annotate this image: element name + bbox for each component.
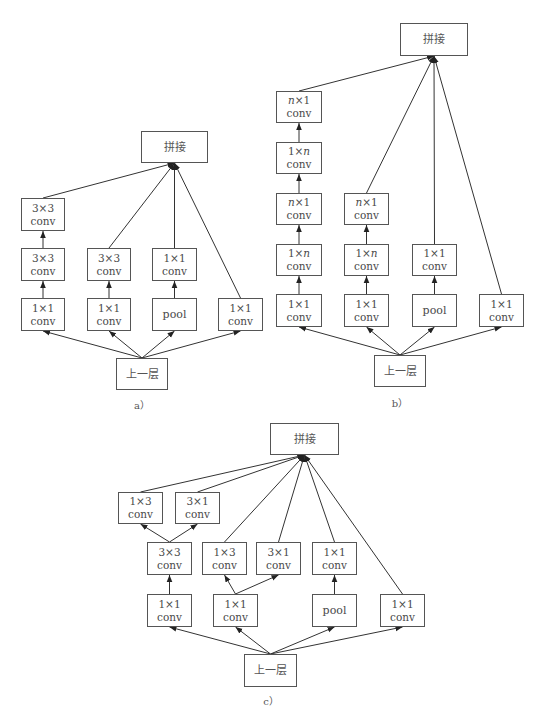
conv-box: 1×1conv <box>276 294 322 327</box>
conv-box: 1×nconv <box>344 244 389 276</box>
box-label: 3×3 <box>98 252 120 265</box>
box-sublabel: conv <box>31 215 56 228</box>
box-sublabel: conv <box>185 508 210 521</box>
conv-box: 1×1conv <box>344 294 389 327</box>
box-label: 上一层 <box>126 368 159 381</box>
conv-box: 3×1conv <box>256 542 301 575</box>
edge-arrow <box>141 524 170 542</box>
conv-box: n×1conv <box>276 193 322 225</box>
edge-arrow <box>434 56 435 244</box>
edge-arrow <box>400 327 435 355</box>
box-label: 1×1 <box>288 298 310 311</box>
box-label: 3×1 <box>267 546 289 559</box>
box-sublabel: conv <box>31 315 56 328</box>
conv-box: 1×1conv <box>479 294 524 327</box>
conv-box: 1×1conv <box>152 248 197 281</box>
box-label: 3×3 <box>32 252 54 265</box>
box-label: 上一层 <box>384 365 417 378</box>
concat-box: 拼接 <box>270 423 339 455</box>
box-label: 1×1 <box>158 598 180 611</box>
edge-arrow <box>367 56 435 193</box>
box-label: 1×1 <box>423 247 445 260</box>
edge-arrow <box>305 455 335 542</box>
conv-box: 1×3conv <box>202 542 247 575</box>
box-sublabel: conv <box>266 559 291 572</box>
conv-box: 1×1conv <box>380 594 425 627</box>
panel-caption: c） <box>263 693 279 708</box>
box-sublabel: conv <box>287 107 312 120</box>
edge-arrow <box>271 627 335 654</box>
edge-arrow <box>109 163 175 248</box>
edge-arrow <box>198 455 305 492</box>
edge-arrow <box>43 331 142 358</box>
box-sublabel: conv <box>31 265 56 278</box>
box-label: 拼接 <box>423 33 445 46</box>
panel-caption: b） <box>392 395 408 410</box>
box-label: pool <box>423 304 447 317</box>
conv-box: 1×1conv <box>147 594 192 627</box>
conv-box: 3×1conv <box>175 492 220 524</box>
concat-box: 拼接 <box>141 131 208 163</box>
box-label: 3×3 <box>32 202 54 215</box>
box-sublabel: conv <box>354 209 379 222</box>
conv-box: 1×1conv <box>21 298 65 331</box>
box-label: 1×3 <box>129 495 151 508</box>
box-label: 1×1 <box>98 302 120 315</box>
box-sublabel: conv <box>157 611 182 624</box>
box-sublabel: conv <box>162 265 187 278</box>
box-label: 1×n <box>288 145 310 158</box>
pool-box: pool <box>412 294 457 327</box>
previous-layer-box: 上一层 <box>374 355 426 387</box>
box-label: 1×n <box>355 247 377 260</box>
box-label: 1×1 <box>229 302 251 315</box>
edge-arrow <box>170 627 271 654</box>
box-sublabel: conv <box>354 260 379 273</box>
conv-box: 1×nconv <box>276 142 322 174</box>
conv-box: 1×1conv <box>218 298 263 331</box>
edge-arrow <box>170 524 198 542</box>
box-sublabel: conv <box>97 315 122 328</box>
edge-arrow <box>236 575 279 594</box>
edge-arrow <box>271 627 403 654</box>
box-label: n×1 <box>288 196 310 209</box>
box-sublabel: conv <box>390 611 415 624</box>
edge-arrow <box>367 327 401 355</box>
pool-box: pool <box>312 594 357 627</box>
box-sublabel: conv <box>287 260 312 273</box>
box-sublabel: conv <box>223 611 248 624</box>
conv-box: 3×3conv <box>87 248 131 281</box>
box-label: 1×1 <box>391 598 413 611</box>
conv-box: 1×1conv <box>412 244 457 276</box>
conv-box: 3×3conv <box>147 542 192 575</box>
edge-arrow <box>141 455 305 492</box>
box-label: 1×n <box>288 247 310 260</box>
box-label: n×1 <box>288 94 310 107</box>
box-sublabel: conv <box>157 559 182 572</box>
edge-arrow <box>299 327 400 355</box>
box-label: 1×1 <box>224 598 246 611</box>
conv-box: n×1conv <box>344 193 389 225</box>
box-label: 上一层 <box>254 664 287 677</box>
box-label: 拼接 <box>294 433 316 446</box>
box-label: 1×1 <box>163 252 185 265</box>
conv-box: 1×1conv <box>312 542 357 575</box>
box-sublabel: conv <box>422 260 447 273</box>
edge-arrow <box>236 627 271 654</box>
previous-layer-box: 上一层 <box>116 358 168 390</box>
edge-arrow <box>400 327 502 355</box>
previous-layer-box: 上一层 <box>244 654 297 687</box>
edge-arrow <box>142 331 241 358</box>
box-label: 3×1 <box>186 495 208 508</box>
box-sublabel: conv <box>212 559 237 572</box>
conv-box: 1×1conv <box>87 298 131 331</box>
box-sublabel: conv <box>128 508 153 521</box>
box-sublabel: conv <box>287 158 312 171</box>
edge-arrow <box>299 56 434 91</box>
box-sublabel: conv <box>287 311 312 324</box>
box-label: 1×3 <box>213 546 235 559</box>
conv-box: n×1conv <box>276 91 322 123</box>
inception-module-figure: 拼接3×3conv3×3conv1×1conv3×3conv1×1conv1×1… <box>0 0 545 717</box>
edge-arrow <box>142 331 175 358</box>
box-label: 1×1 <box>32 302 54 315</box>
box-label: 1×1 <box>323 546 345 559</box>
